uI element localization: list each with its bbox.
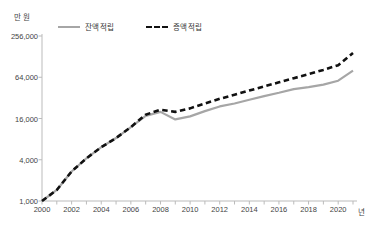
- x-axis-tick-8: 2016: [271, 205, 288, 214]
- legend-swatch-dashed: [146, 26, 168, 28]
- legend-label-1: 증액 적립: [173, 21, 202, 32]
- series-line-1: [42, 53, 353, 201]
- series-lines: [42, 53, 353, 201]
- x-axis-tick-6: 2012: [211, 205, 228, 214]
- chart-container: 만 원 년 256,00064,00016,0004,0001,000 잔액 적…: [0, 0, 374, 233]
- x-axis-tick-4: 2008: [152, 205, 169, 214]
- legend-label-0: 잔액 적립: [85, 21, 114, 32]
- x-axis-tick-9: 2018: [300, 205, 317, 214]
- x-axis-tick-10: 2020: [330, 205, 347, 214]
- x-axis-tick-5: 2010: [182, 205, 199, 214]
- legend-item-0[interactable]: 잔액 적립: [58, 21, 114, 32]
- legend-item-1[interactable]: 증액 적립: [146, 21, 202, 32]
- series-line-0: [42, 71, 353, 201]
- x-axis-tick-0: 2000: [34, 205, 51, 214]
- x-axis-tick-3: 2006: [123, 205, 140, 214]
- x-axis-tick-7: 2014: [241, 205, 258, 214]
- axis-lines: [42, 34, 357, 201]
- legend-swatch-solid: [58, 26, 80, 28]
- tick-marks: [39, 36, 354, 205]
- x-axis-tick-2: 2004: [93, 205, 110, 214]
- plot-area: [0, 0, 374, 233]
- x-axis-tick-1: 2002: [63, 205, 80, 214]
